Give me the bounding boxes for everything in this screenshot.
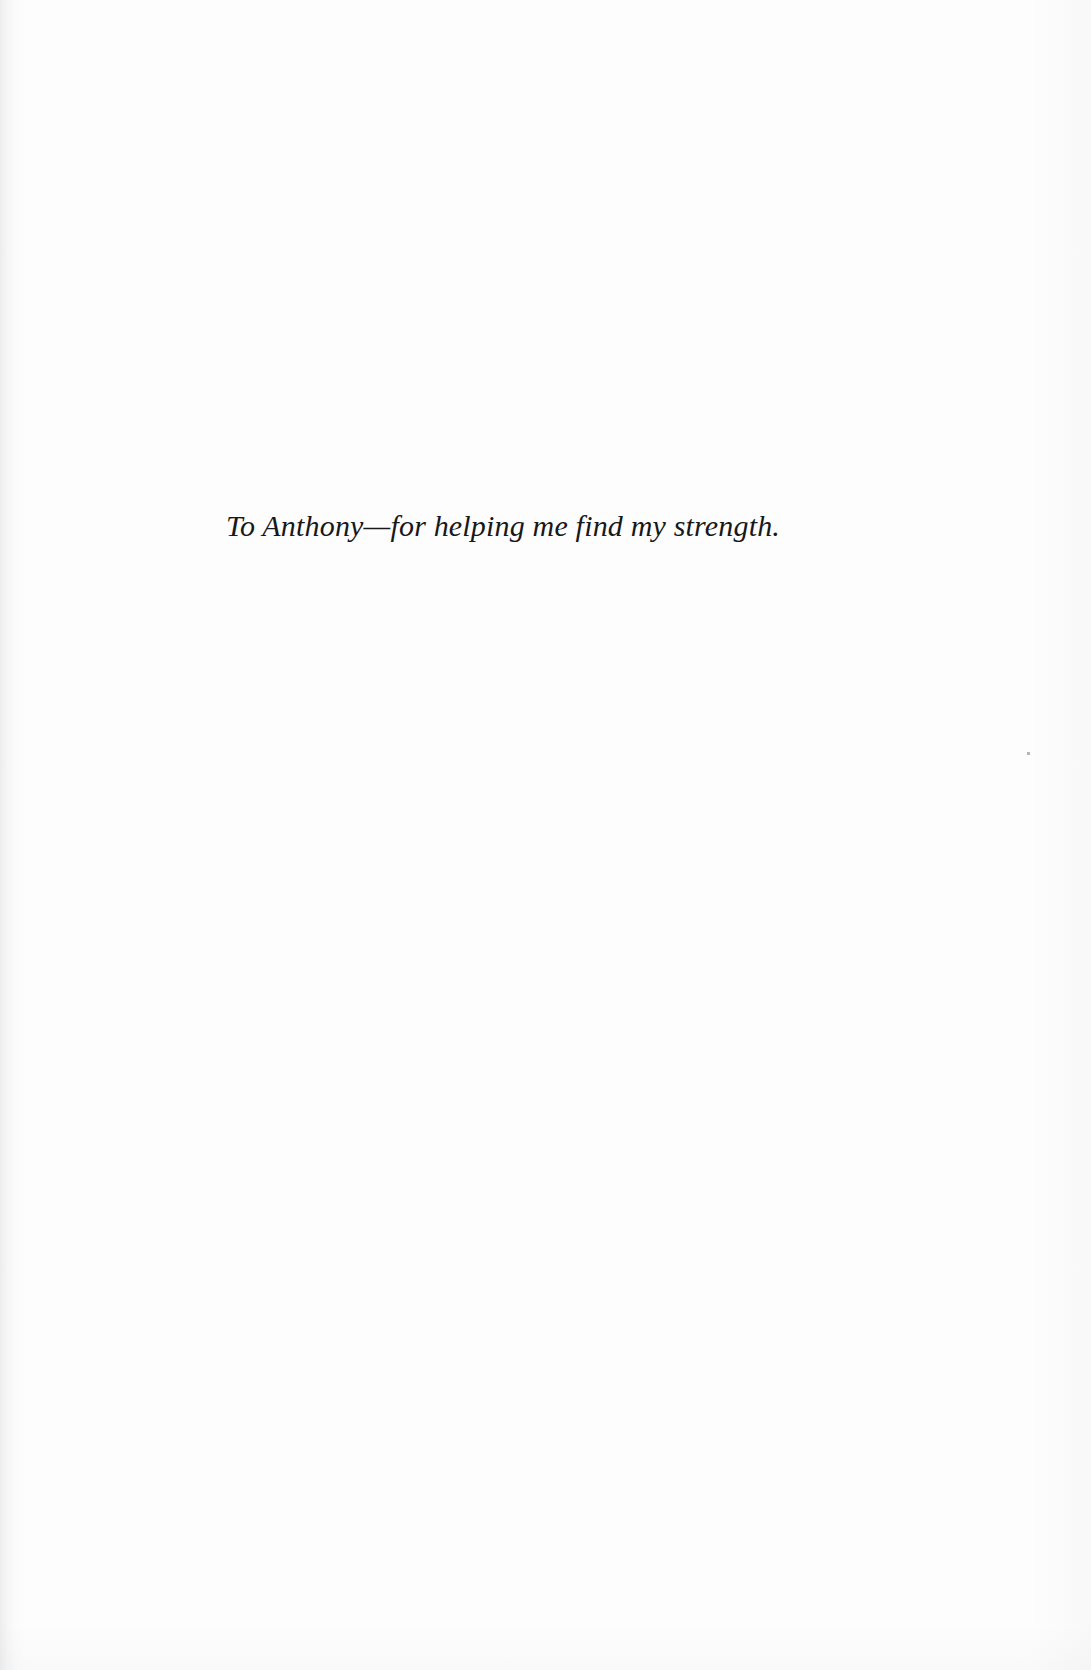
dedication-block: To Anthony—for helping me find my streng… — [0, 504, 1006, 548]
scan-edge-left-shadow — [0, 0, 26, 1670]
book-page: To Anthony—for helping me find my streng… — [0, 0, 1091, 1670]
scan-edge-right-shadow — [1031, 0, 1091, 1670]
scan-speck — [1027, 752, 1030, 755]
dedication-text: To Anthony—for helping me find my streng… — [226, 504, 780, 548]
scan-edge-bottom-shadow — [0, 1624, 1091, 1670]
